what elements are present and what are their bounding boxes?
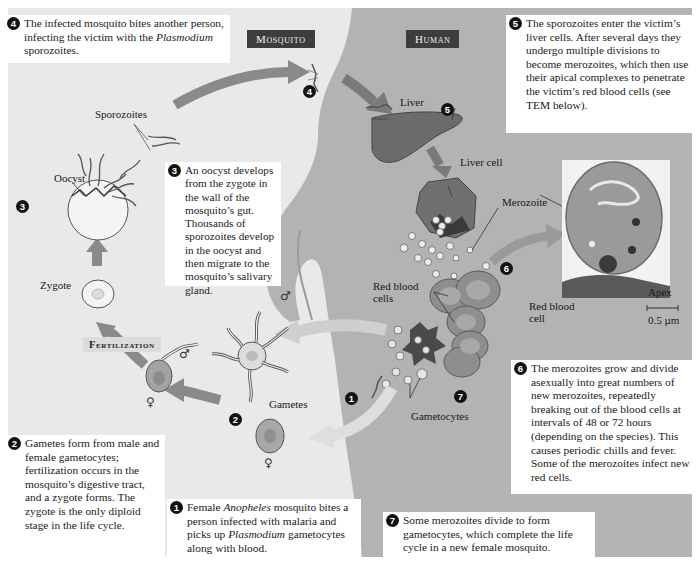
arrow-blood-to-gametes-male — [296, 325, 386, 332]
label-oocyst: Oocyst — [54, 172, 85, 184]
step-number-badge: 1 — [170, 501, 183, 514]
malaria-life-cycle-figure: Mosquito Human Fertilization 4 The infec… — [0, 0, 699, 574]
label-liver: Liver — [400, 96, 424, 108]
label-zygote: Zygote — [40, 279, 71, 291]
label-apex: Apex — [648, 286, 672, 298]
arrow-sporozoites-to-mosquito — [175, 72, 290, 105]
label-sporozoites: Sporozoites — [95, 108, 147, 120]
badge-step-6: 6 — [500, 262, 513, 275]
step-6-box: 6 The merozoites grow and divide asexual… — [511, 360, 697, 494]
human-header: Human — [406, 30, 459, 48]
step-7-box: 7 Some merozoites divide to form gametoc… — [383, 512, 595, 560]
label-gametocytes: Gametocytes — [411, 410, 468, 422]
step-number-badge: 7 — [386, 514, 399, 527]
label-gametes: Gametes — [269, 398, 307, 410]
tem-micrograph — [562, 160, 670, 298]
female-symbol: ♀ — [264, 456, 273, 470]
step-4-box: 4 The infected mosquito bites another pe… — [4, 15, 230, 63]
step-number-badge: 6 — [514, 362, 527, 375]
badge-step-1: 1 — [345, 392, 358, 405]
male-symbol: ♂ — [179, 347, 190, 361]
step-number-badge: 5 — [509, 17, 522, 30]
mosquito-header: Mosquito — [247, 30, 315, 48]
label-merozoite: Merozoite — [502, 196, 547, 208]
step-number-badge: 2 — [8, 437, 21, 450]
step-number-badge: 3 — [168, 164, 181, 177]
step-1-box: 1 Female Anopheles mosquito bites a pers… — [167, 499, 361, 562]
badge-step-5: 5 — [441, 103, 454, 116]
badge-step-7: 7 — [454, 390, 467, 403]
male-symbol: ♂ — [280, 289, 291, 303]
step-number-badge: 4 — [7, 17, 20, 30]
female-symbol: ♀ — [146, 395, 155, 409]
label-red-blood-cell: Red blood cell — [529, 300, 579, 324]
fertilization-label: Fertilization — [83, 337, 161, 352]
badge-step-2: 2 — [229, 413, 242, 426]
badge-step-3: 3 — [16, 200, 29, 213]
label-liver-cell: Liver cell — [460, 156, 502, 168]
label-scale-bar: 0.5 µm — [648, 314, 679, 326]
badge-step-4: 4 — [303, 85, 316, 98]
label-red-blood-cells: Red blood cells — [373, 280, 423, 304]
step-2-box: 2 Gametes form from male and female game… — [5, 435, 165, 563]
step-5-box: 5 The sporozoites enter the victim’s liv… — [506, 15, 696, 133]
step-3-box: 3 An oocyst develops from the zygote in … — [165, 162, 281, 286]
